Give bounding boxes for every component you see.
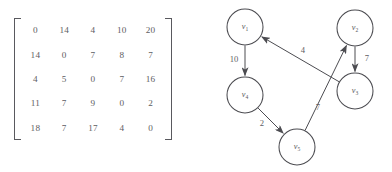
matrix-cell: 4 (79, 18, 108, 42)
matrix-cell: 9 (79, 91, 108, 115)
figure-root: 014410201407874507161179021871740 104772… (0, 0, 392, 172)
matrix-cell: 0 (21, 18, 50, 42)
matrix-row: 140787 (21, 42, 165, 66)
matrix-table: 014410201407874507161179021871740 (21, 18, 165, 140)
graph-panel: 104772 v1v2v3v4v5 (190, 0, 392, 172)
matrix-cell: 5 (50, 67, 79, 91)
matrix-cell: 7 (50, 116, 79, 140)
matrix-cell: 0 (136, 116, 165, 140)
edge-weight-label-v4-v5: 2 (260, 118, 264, 128)
matrix-cell: 7 (79, 42, 108, 66)
matrix-right-bracket (165, 18, 172, 140)
matrix-cell: 18 (21, 116, 50, 140)
graph-node-v2[interactable]: v2 (337, 10, 373, 46)
matrix-wrapper: 014410201407874507161179021871740 (14, 18, 172, 140)
matrix-cell: 0 (79, 67, 108, 91)
matrix-row: 1871740 (21, 116, 165, 140)
matrix-row: 117902 (21, 91, 165, 115)
matrix-cell: 11 (21, 91, 50, 115)
node-label-subscript-v2: 2 (355, 27, 358, 33)
matrix-row: 01441020 (21, 18, 165, 42)
matrix-cell: 17 (79, 116, 108, 140)
edge-weight-label-v5-v2: 7 (316, 102, 321, 112)
graph-svg: 104772 v1v2v3v4v5 (190, 0, 392, 172)
matrix-cell: 0 (107, 91, 136, 115)
node-label-subscript-v4: 4 (245, 94, 248, 100)
edge-weight-label-v3-v1: 4 (301, 45, 306, 55)
matrix-cell: 7 (107, 67, 136, 91)
nodes-layer: v1v2v3v4v5 (227, 9, 373, 165)
matrix-cell: 4 (21, 67, 50, 91)
graph-edge-v3-v1 (262, 37, 339, 82)
edge-weight-label-v1-v4: 10 (230, 54, 239, 64)
matrix-row: 450716 (21, 67, 165, 91)
matrix-cell: 8 (107, 42, 136, 66)
matrix-cell: 10 (107, 18, 136, 42)
node-label-subscript-v3: 3 (355, 90, 358, 96)
node-label-subscript-v5: 5 (297, 146, 300, 152)
matrix-cell: 16 (136, 67, 165, 91)
matrix-cell: 7 (50, 91, 79, 115)
graph-node-v3[interactable]: v3 (337, 73, 373, 109)
matrix-cell: 20 (136, 18, 165, 42)
graph-node-v1[interactable]: v1 (227, 9, 263, 45)
matrix-cell: 4 (107, 116, 136, 140)
matrix-cell: 14 (50, 18, 79, 42)
matrix-cell: 7 (136, 42, 165, 66)
graph-node-v4[interactable]: v4 (227, 77, 263, 113)
edge-weight-label-v2-v3: 7 (365, 53, 370, 63)
matrix-left-bracket (14, 18, 21, 140)
graph-node-v5[interactable]: v5 (279, 129, 315, 165)
matrix-cell: 14 (21, 42, 50, 66)
matrix-cell: 2 (136, 91, 165, 115)
node-label-subscript-v1: 1 (245, 26, 248, 32)
matrix-cell: 0 (50, 42, 79, 66)
adjacency-matrix-panel: 014410201407874507161179021871740 (0, 0, 190, 172)
